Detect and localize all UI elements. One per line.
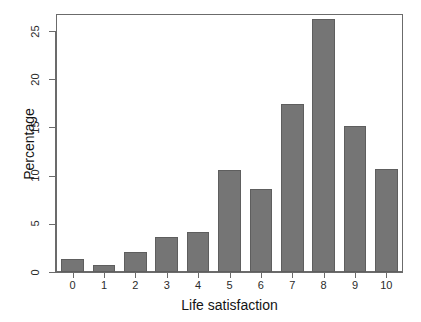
bar xyxy=(93,265,116,272)
x-axis-tick-label: 3 xyxy=(152,280,182,291)
x-axis-tick-label: 9 xyxy=(340,280,370,291)
x-axis-tick xyxy=(167,273,168,278)
x-axis-tick-label: 2 xyxy=(120,280,150,291)
x-axis-tick-label: 8 xyxy=(309,280,339,291)
bar xyxy=(124,252,147,272)
x-axis-title: Life satisfaction xyxy=(56,297,403,313)
y-axis-tick xyxy=(49,272,55,273)
bars-layer xyxy=(57,15,402,272)
x-axis-tick xyxy=(386,273,387,278)
bar xyxy=(344,126,367,272)
y-axis-line xyxy=(55,31,56,273)
x-axis-tick-label: 10 xyxy=(371,280,401,291)
bar-chart: 0510152025 012345678910 Life satisfactio… xyxy=(0,0,421,322)
x-axis-tick-label: 7 xyxy=(277,280,307,291)
bar xyxy=(61,259,84,272)
x-axis-tick xyxy=(73,273,74,278)
y-axis-tick xyxy=(49,31,55,32)
x-axis-tick xyxy=(261,273,262,278)
x-axis-tick-label: 4 xyxy=(183,280,213,291)
x-axis-tick xyxy=(292,273,293,278)
x-axis-tick-label: 6 xyxy=(246,280,276,291)
x-axis-tick xyxy=(324,273,325,278)
y-axis-tick xyxy=(49,79,55,80)
bar xyxy=(218,170,241,272)
x-axis-tick xyxy=(104,273,105,278)
y-axis-tick xyxy=(49,127,55,128)
bar xyxy=(187,232,210,272)
x-axis-tick xyxy=(135,273,136,278)
y-axis-title: Percentage xyxy=(21,69,37,219)
bar xyxy=(250,189,273,272)
y-axis-tick-label: 0 xyxy=(24,265,46,279)
y-axis-tick xyxy=(49,224,55,225)
x-axis-tick-label: 1 xyxy=(89,280,119,291)
y-axis-tick-label: 25 xyxy=(24,24,46,38)
y-axis-tick xyxy=(49,176,55,177)
x-axis-tick-label: 0 xyxy=(58,280,88,291)
bar xyxy=(155,237,178,272)
x-axis-tick xyxy=(355,273,356,278)
x-axis-tick xyxy=(198,273,199,278)
bar xyxy=(312,19,335,272)
bar xyxy=(281,104,304,272)
x-axis-tick-label: 5 xyxy=(215,280,245,291)
x-axis-tick xyxy=(230,273,231,278)
bar xyxy=(375,169,398,272)
